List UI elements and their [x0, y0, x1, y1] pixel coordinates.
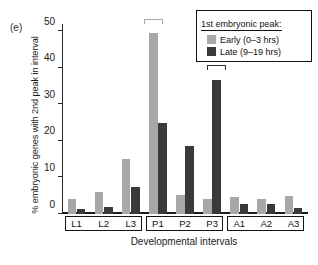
legend-entry-late: Late (9–19 hrs) [207, 47, 307, 57]
y-axis-tick-label: 20 [44, 125, 55, 136]
legend-entry-early: Early (0–3 hrs) [207, 35, 307, 45]
y-axis-tick-label: 10 [44, 161, 55, 172]
bar [285, 196, 294, 214]
y-axis-tick-label: 50 [44, 15, 55, 26]
x-axis-category-label: A1 [233, 218, 245, 229]
x-axis-category-label: L3 [125, 218, 136, 229]
x-axis-category-label: P3 [206, 218, 218, 229]
y-axis-tick-label: 30 [44, 88, 55, 99]
y-axis-title: % embryonic genes with 2nd peak in inter… [30, 25, 40, 225]
legend-swatch-late [207, 47, 216, 56]
y-axis-tick-label: 40 [44, 52, 55, 63]
x-axis-category-label: P2 [179, 218, 191, 229]
legend-label: Early (0–3 hrs) [220, 35, 279, 45]
bar [95, 192, 104, 214]
significance-bracket [144, 19, 163, 24]
panel-label: (e) [10, 22, 22, 33]
bar [185, 146, 194, 214]
significance-bracket [207, 65, 226, 70]
bar [176, 195, 185, 214]
bar [230, 197, 239, 214]
bar [267, 204, 276, 214]
bar [149, 33, 158, 214]
legend-swatch-early [207, 35, 216, 44]
bar [240, 204, 249, 214]
legend: 1st embryonic peak: Early (0–3 hrs)Late … [196, 10, 312, 62]
bar [203, 199, 212, 214]
legend-entries: Early (0–3 hrs)Late (9–19 hrs) [201, 35, 307, 57]
x-axis-category-label: A2 [261, 218, 273, 229]
chart-figure: (e) % embryonic genes with 2nd peak in i… [0, 0, 318, 265]
bar [68, 199, 77, 214]
x-axis-category-label: L1 [71, 218, 82, 229]
bar [122, 159, 131, 214]
bar [77, 209, 86, 214]
x-axis-title: Developmental intervals [62, 236, 306, 247]
legend-label: Late (9–19 hrs) [220, 47, 281, 57]
x-axis-category-label: L2 [98, 218, 109, 229]
bar [104, 207, 113, 214]
bar [212, 80, 221, 214]
bar [294, 208, 303, 214]
bar [158, 123, 167, 214]
legend-title: 1st embryonic peak: [201, 19, 282, 31]
x-axis-category-label: P1 [152, 218, 164, 229]
bar [257, 199, 266, 214]
y-axis-tick-label: 0 [49, 198, 55, 209]
x-axis-category-label: A3 [288, 218, 300, 229]
x-axis-group-boxes: L1L2L3P1P2P3A1A2A3 [62, 216, 306, 231]
bar [131, 187, 140, 214]
